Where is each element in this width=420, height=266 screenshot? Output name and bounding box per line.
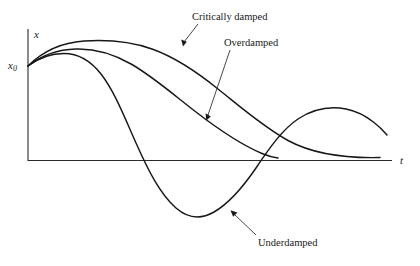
annotation-overdamped: Overdamped [224,38,278,49]
leader-line-overdamped [208,50,230,115]
initial-displacement-label: x0 [8,60,17,73]
x-axis-label: t [400,155,403,166]
annotation-underdamped: Underdamped [258,238,317,249]
arrowhead-critically-damped [181,40,187,47]
annotation-critically-damped: Critically damped [192,12,268,23]
plot-canvas [0,0,420,266]
curve-overdamped [28,49,278,158]
leader-line-critically-damped [184,24,198,42]
curve-critically-damped [28,40,380,157]
initial-displacement-label-subscript: 0 [13,64,17,73]
curve-underdamped [28,54,387,217]
damped-oscillation-figure: x x0 t Critically damped Overdamped Unde… [0,0,420,266]
y-axis-label: x [34,29,39,40]
leader-line-underdamped [234,214,256,235]
